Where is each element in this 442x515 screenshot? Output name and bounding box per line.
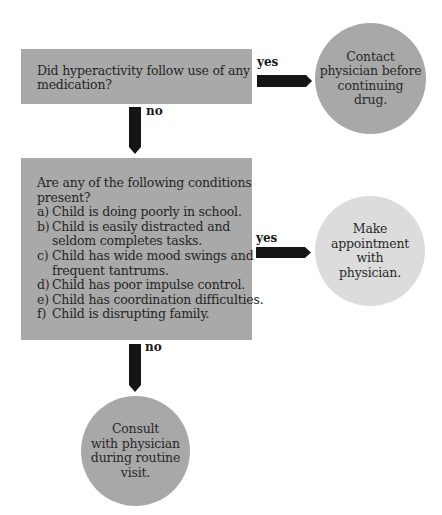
outcome-2-circle: Make appointment with physician.	[315, 196, 425, 306]
outcome-1-line: continuing	[320, 79, 422, 94]
condition-marker: e)	[37, 293, 52, 308]
condition-text: seldom completes tasks.	[37, 234, 263, 249]
question-1-line: Did hyperactivity follow use of any	[37, 64, 250, 78]
condition-text: Child is doing poorly in school.	[52, 205, 242, 220]
outcome-2-line: physician.	[331, 266, 409, 281]
outcome-3-line: with physician	[91, 437, 180, 452]
question-1-text: Did hyperactivity follow use of any medi…	[37, 64, 250, 91]
condition-marker: a)	[37, 205, 52, 220]
yes-label-1: yes	[257, 55, 278, 69]
condition-marker: c)	[37, 249, 52, 264]
outcome-2-line: appointment	[331, 237, 409, 252]
outcome-1-circle: Contact physician before continuing drug…	[315, 23, 426, 134]
outcome-2-line: Make	[331, 222, 409, 237]
question-2-text: Are any of the following conditions pres…	[37, 176, 263, 322]
outcome-3-text: Consult with physician during routine vi…	[91, 422, 180, 480]
condition-marker: f)	[37, 307, 52, 322]
down-arrow-icon	[128, 344, 142, 393]
condition-text: Child is disrupting family.	[52, 307, 209, 322]
right-arrow-icon	[257, 74, 313, 88]
condition-item-d: d) Child has poor impulse control.	[37, 278, 263, 293]
question-1-box: Did hyperactivity follow use of any medi…	[21, 49, 252, 104]
outcome-1-line: Contact	[320, 50, 422, 65]
condition-marker: d)	[37, 278, 52, 293]
question-2-intro-line: Are any of the following conditions	[37, 176, 263, 191]
outcome-3-line: during routine	[91, 451, 180, 466]
condition-text: Child has coordination difficulties.	[52, 293, 263, 308]
right-arrow-icon	[256, 246, 312, 259]
no-label-2: no	[145, 340, 162, 354]
outcome-2-text: Make appointment with physician.	[331, 222, 409, 280]
condition-marker: b)	[37, 220, 52, 235]
condition-item-f: f) Child is disrupting family.	[37, 307, 263, 322]
question-2-intro-line: present?	[37, 191, 263, 206]
down-arrow-icon	[128, 107, 142, 155]
outcome-3-line: visit.	[91, 466, 180, 481]
question-1-line: medication?	[37, 78, 250, 92]
outcome-1-line: drug.	[320, 93, 422, 108]
condition-text: Child has wide mood swings and	[52, 249, 253, 264]
condition-text: frequent tantrums.	[37, 264, 263, 279]
condition-text: Child is easily distracted and	[52, 220, 230, 235]
outcome-3-circle: Consult with physician during routine vi…	[81, 396, 190, 506]
no-label-1: no	[146, 104, 163, 118]
condition-item-a: a) Child is doing poorly in school.	[37, 205, 263, 220]
outcome-3-line: Consult	[91, 422, 180, 437]
outcome-2-line: with	[331, 251, 409, 266]
outcome-1-text: Contact physician before continuing drug…	[320, 50, 422, 108]
condition-item-c: c) Child has wide mood swings and	[37, 249, 263, 264]
condition-text: Child has poor impulse control.	[52, 278, 245, 293]
outcome-1-line: physician before	[320, 64, 422, 79]
yes-label-2: yes	[256, 231, 277, 245]
condition-item-b: b) Child is easily distracted and	[37, 220, 263, 235]
condition-item-e: e) Child has coordination difficulties.	[37, 293, 263, 308]
